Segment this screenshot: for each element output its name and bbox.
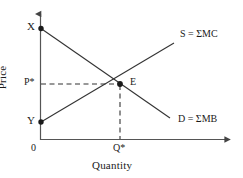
demand-curve	[41, 29, 170, 119]
equilibrium-point-label: E	[130, 77, 136, 87]
origin-label: 0	[31, 143, 36, 153]
x-axis-title: Quantity	[92, 160, 132, 171]
demand-curve-label: D = ΣMB	[178, 114, 217, 124]
equilibrium-quantity-label: Q*	[113, 143, 125, 153]
supply-curve-label: S = ΣMC	[180, 29, 218, 39]
point-y-marker	[38, 119, 43, 124]
supply-demand-diagram: X Y P* 0 Q* E S = ΣMC D = ΣMB Quantity P…	[0, 0, 243, 178]
point-equilibrium-marker	[117, 81, 123, 87]
supply-curve	[41, 43, 174, 122]
point-x-marker	[38, 26, 43, 31]
y-axis-title: Price	[0, 66, 8, 90]
equilibrium-price-label: P*	[24, 77, 35, 87]
point-x-label: X	[27, 21, 35, 32]
point-y-label: Y	[27, 115, 35, 126]
